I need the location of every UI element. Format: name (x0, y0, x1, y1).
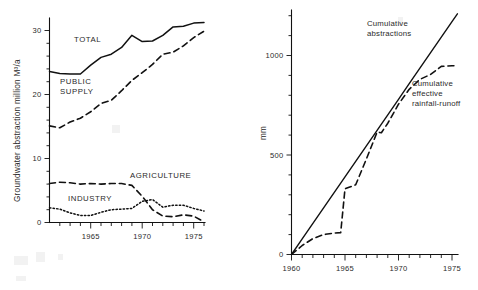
left-y-tick-label-20: 20 (32, 90, 41, 99)
figure-background (0, 0, 478, 290)
figure-svg: 0 10 20 30 1965 1970 1975 Groundwater ab… (0, 0, 478, 290)
left-x-tick-label-1975: 1975 (185, 232, 203, 241)
right-y-tick-label-500: 500 (270, 151, 284, 160)
right-annotation-abstractions-line2: abstractions (367, 29, 411, 38)
left-y-tick-label-0: 0 (37, 218, 42, 227)
left-x-tick-label-1970: 1970 (133, 232, 151, 241)
left-y-axis-title: Groundwater abstraction million M³/a (13, 59, 22, 202)
left-series-label-public-supply-2: SUPPLY (60, 87, 94, 96)
right-x-tick-label-1975: 1975 (443, 264, 461, 273)
left-x-tick-label-1965: 1965 (82, 232, 100, 241)
left-series-label-total: TOTAL (74, 35, 101, 44)
right-x-tick-label-1960: 1960 (282, 264, 300, 273)
right-x-tick-label-1970: 1970 (389, 264, 407, 273)
right-annotation-rainfall-line2: effective (412, 89, 443, 98)
figure-container: 0 10 20 30 1965 1970 1975 Groundwater ab… (0, 0, 478, 290)
right-x-tick-label-1965: 1965 (336, 264, 354, 273)
left-series-label-public-supply-1: PUBLIC (60, 77, 91, 86)
right-annotation-rainfall-line3: rainfall-runoff (412, 99, 461, 108)
left-y-tick-label-10: 10 (32, 154, 41, 163)
left-y-tick-label-30: 30 (32, 26, 41, 35)
left-series-label-agriculture: AGRICULTURE (130, 171, 191, 180)
right-y-axis-title: mm (259, 126, 268, 140)
right-annotation-abstractions-line1: Cumulative (367, 19, 408, 28)
right-y-tick-label-0: 0 (279, 250, 284, 259)
right-y-tick-label-1000: 1000 (265, 51, 283, 60)
right-annotation-rainfall-line1: Cumulative (412, 79, 453, 88)
left-series-label-industry: INDUSTRY (68, 194, 112, 203)
